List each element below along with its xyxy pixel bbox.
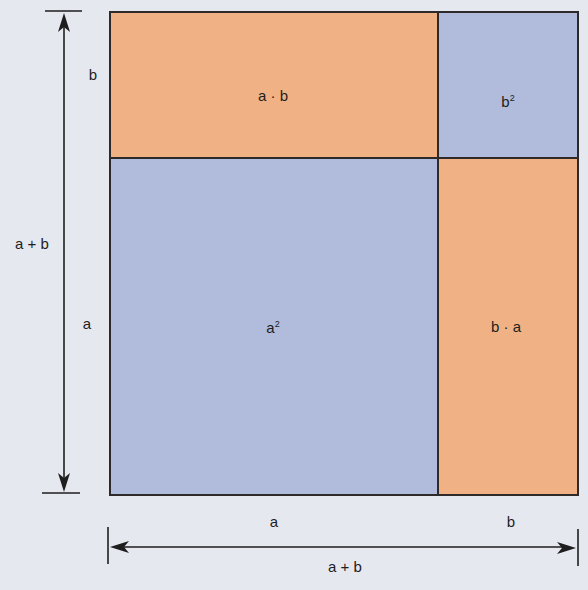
bottom-segment-a-label: a: [270, 513, 278, 530]
label-a-squared: a2: [266, 319, 279, 336]
label-ab: a · b: [258, 87, 288, 104]
region-b-squared: [438, 12, 578, 158]
label-a-squared-exp: 2: [275, 319, 280, 329]
left-dimension-arrow: [42, 11, 82, 493]
binomial-square-diagram: [0, 0, 588, 590]
arrow-right-icon: [557, 542, 576, 554]
left-segment-a-label: a: [83, 315, 91, 332]
left-total-label: a + b: [15, 235, 49, 252]
bottom-total-label: a + b: [328, 558, 362, 575]
region-ab: [110, 12, 438, 158]
left-segment-b-label: b: [89, 66, 97, 83]
label-ba: b · a: [491, 318, 521, 335]
label-b-squared: b2: [501, 93, 514, 110]
label-b-squared-exp: 2: [510, 93, 515, 103]
bottom-segment-b-label: b: [507, 513, 515, 530]
